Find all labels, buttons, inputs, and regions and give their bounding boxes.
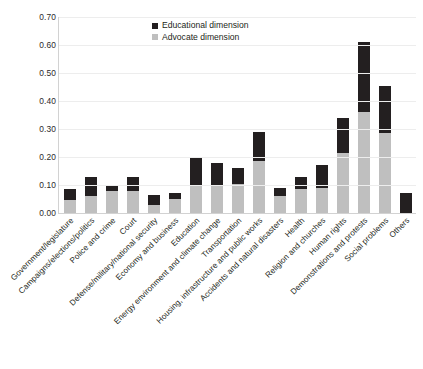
bar-segment-advocate: [274, 196, 286, 213]
stacked-bar[interactable]: [85, 177, 97, 213]
stacked-bar[interactable]: [232, 168, 244, 213]
stacked-bar[interactable]: [295, 177, 307, 213]
bar-segment-educational: [232, 168, 244, 183]
legend-item-label: Educational dimension: [162, 20, 248, 32]
gridline: [59, 157, 416, 158]
chart-figure: 0.700.600.500.400.300.200.100.00 Educati…: [0, 0, 423, 369]
bar-segment-advocate: [232, 184, 244, 213]
bar-segment-advocate: [169, 199, 181, 213]
x-axis-category-labels: Government/legislatureCampaigns/election…: [0, 214, 423, 364]
plot-area: [58, 17, 416, 214]
plot-wrapper: 0.700.600.500.400.300.200.100.00 Educati…: [0, 0, 423, 230]
bar-segment-advocate: [106, 191, 118, 213]
gridline: [59, 101, 416, 102]
stacked-bar[interactable]: [64, 189, 76, 213]
stacked-bar[interactable]: [400, 193, 412, 213]
bar-segment-advocate: [148, 205, 160, 213]
bar-segment-educational: [274, 188, 286, 196]
bar-segment-advocate: [85, 196, 97, 213]
bar-segment-educational: [169, 193, 181, 199]
stacked-bar[interactable]: [274, 188, 286, 213]
bar-segment-educational: [64, 189, 76, 200]
gridline: [59, 73, 416, 74]
bar-segment-advocate: [337, 153, 349, 213]
bar-segment-advocate: [127, 191, 139, 213]
bar-segment-educational: [295, 177, 307, 190]
bar-segment-educational: [400, 193, 412, 213]
gridline: [59, 185, 416, 186]
bar-segment-educational: [211, 163, 223, 185]
stacked-bar[interactable]: [358, 42, 370, 213]
chart-legend: Educational dimensionAdvocate dimension: [152, 20, 248, 43]
stacked-bar[interactable]: [211, 163, 223, 213]
y-axis-tick-label: 0.20: [22, 153, 56, 162]
y-axis-tick-label: 0.30: [22, 125, 56, 134]
gridline: [59, 17, 416, 18]
bar-segment-educational: [85, 177, 97, 197]
stacked-bar[interactable]: [148, 195, 160, 213]
square-swatch-light: [152, 34, 158, 40]
stacked-bar[interactable]: [127, 177, 139, 213]
bar-segment-advocate: [379, 133, 391, 213]
bar-segment-advocate: [211, 185, 223, 213]
bar-segment-advocate: [358, 112, 370, 213]
y-axis-tick-label: 0.10: [22, 181, 56, 190]
y-axis-tick-label: 0.60: [22, 41, 56, 50]
y-axis-tick-label: 0.50: [22, 69, 56, 78]
stacked-bar[interactable]: [169, 193, 181, 213]
y-axis-tick-label: 0.70: [22, 13, 56, 22]
y-axis: 0.700.600.500.400.300.200.100.00: [22, 12, 56, 217]
stacked-bar[interactable]: [337, 118, 349, 213]
stacked-bar[interactable]: [316, 165, 328, 213]
bar-segment-advocate: [295, 189, 307, 213]
bar-segment-educational: [190, 158, 202, 185]
legend-item-label: Advocate dimension: [162, 32, 239, 44]
gridline: [59, 129, 416, 130]
bar-segment-educational: [379, 86, 391, 134]
bar-segment-educational: [127, 177, 139, 191]
legend-item[interactable]: Educational dimension: [152, 20, 248, 32]
legend-item[interactable]: Advocate dimension: [152, 32, 248, 44]
bar-segment-educational: [337, 118, 349, 153]
bar-segment-advocate: [190, 185, 202, 213]
figure-caption: [16, 357, 346, 368]
stacked-bar[interactable]: [253, 132, 265, 213]
square-swatch-dark: [152, 23, 158, 29]
y-axis-tick-label: 0.40: [22, 97, 56, 106]
gridline: [59, 45, 416, 46]
bar-segment-educational: [148, 195, 160, 205]
stacked-bar[interactable]: [106, 185, 118, 213]
bar-segment-advocate: [64, 200, 76, 213]
stacked-bar[interactable]: [379, 86, 391, 213]
bar-segment-advocate: [253, 161, 265, 213]
bar-segment-advocate: [316, 188, 328, 213]
bar-group: [59, 17, 416, 213]
